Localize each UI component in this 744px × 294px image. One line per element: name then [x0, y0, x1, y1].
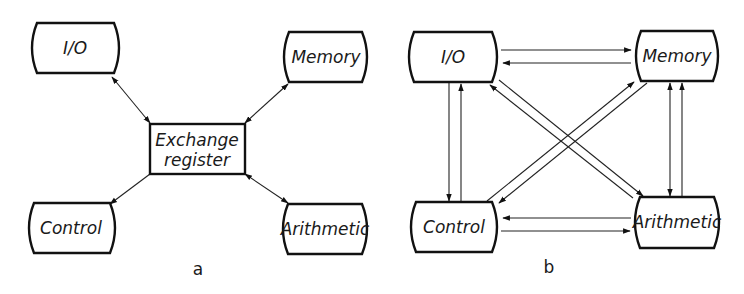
node-exchange-register: Exchange register: [150, 124, 245, 174]
node-arithmetic-b-label: Arithmetic: [632, 212, 722, 232]
edge-exchange-control: [110, 174, 150, 204]
exchange-label-line1: Exchange: [155, 130, 238, 150]
edge-exchange-memory: [245, 84, 288, 123]
edge-io-to-arithmetic: [499, 80, 643, 196]
caption-a: a: [193, 259, 203, 279]
caption-b: b: [544, 257, 555, 277]
node-memory-a-label: Memory: [291, 47, 361, 67]
diagram-a: I/O Memory Exchange register Control Ari…: [29, 23, 370, 279]
edge-exchange-arithmetic: [245, 174, 288, 203]
node-io-a-label: I/O: [63, 38, 87, 58]
node-arithmetic-a-label: Arithmetic: [280, 219, 370, 239]
node-io-b: I/O: [409, 32, 497, 82]
edge-memory-to-control: [499, 83, 647, 203]
node-control-b: Control: [411, 202, 497, 252]
node-io-b-label: I/O: [441, 47, 465, 67]
diagram-b: I/O Memory Control Arithmetic b: [409, 31, 722, 277]
node-control-b-label: Control: [423, 217, 485, 237]
node-memory-a: Memory: [284, 32, 367, 82]
architecture-diagram: I/O Memory Exchange register Control Ari…: [0, 0, 744, 294]
node-control-a-label: Control: [40, 218, 102, 238]
node-arithmetic-b: Arithmetic: [632, 197, 722, 248]
node-arithmetic-a: Arithmetic: [280, 204, 370, 254]
node-control-a: Control: [29, 203, 115, 253]
edge-exchange-io: [112, 77, 150, 123]
node-memory-b-label: Memory: [642, 46, 712, 66]
node-io-a: I/O: [32, 23, 119, 73]
exchange-label-line2: register: [164, 150, 231, 170]
node-memory-b: Memory: [636, 31, 718, 81]
